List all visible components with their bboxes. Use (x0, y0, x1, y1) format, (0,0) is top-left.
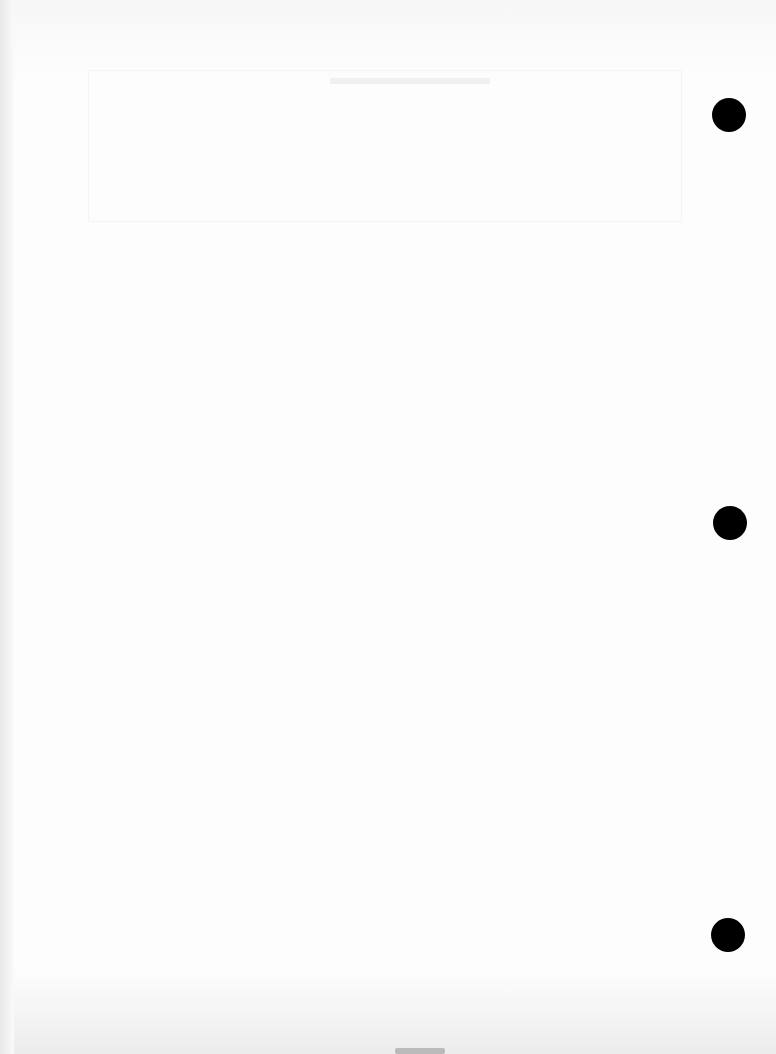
scanned-page (0, 0, 776, 1054)
punch-hole-top (712, 98, 746, 132)
scanner-edge-mark (395, 1048, 445, 1054)
bleed-through-area (88, 70, 682, 222)
punch-hole-middle (713, 506, 747, 540)
bleed-through-title (330, 78, 490, 84)
punch-hole-bottom (711, 918, 745, 952)
page-edge-shadow (0, 0, 14, 1054)
